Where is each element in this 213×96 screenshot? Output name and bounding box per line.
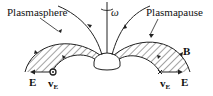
earth xyxy=(94,53,120,70)
plasmapause-label: Plasmapause xyxy=(146,6,203,18)
plasmasphere-diagram: ω Plasmasphere Plasmapause B E vE E vE xyxy=(0,0,213,96)
plasmasphere-label: Plasmasphere xyxy=(7,6,68,18)
b-field-label: B xyxy=(183,45,191,57)
plasmapause-leader xyxy=(150,19,158,35)
ve-right-label: vE xyxy=(160,77,171,91)
plasmasphere-leader xyxy=(40,18,58,31)
omega-label: ω xyxy=(111,6,119,18)
ve-left-label: vE xyxy=(48,77,59,91)
e-left-label: E xyxy=(29,76,36,88)
e-right-label: E xyxy=(181,76,188,88)
